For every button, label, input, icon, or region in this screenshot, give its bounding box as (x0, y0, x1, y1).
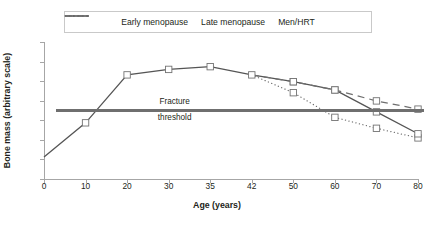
x-tick-label-42: 42 (247, 182, 256, 190)
x-tick-label-35: 35 (206, 182, 215, 190)
data-point-marker (124, 72, 130, 78)
data-point-marker (332, 87, 338, 93)
data-point-marker (373, 125, 379, 131)
bone-mass-chart: Early menopause Late menopause Men/HRT B… (0, 0, 434, 229)
data-point-marker (332, 114, 338, 120)
series-early-menopause (252, 75, 418, 138)
data-point-marker (207, 63, 213, 69)
chart-legend: Early menopause Late menopause Men/HRT (64, 11, 372, 33)
x-tick-label-10: 10 (81, 182, 90, 190)
legend-item-men-hrt: Men/HRT (278, 18, 315, 27)
x-tick-label-0: 0 (42, 182, 47, 190)
legend-item-early-menopause: Early menopause (121, 18, 188, 27)
data-point-marker (165, 66, 171, 72)
x-axis-line (44, 179, 418, 180)
legend-label-early-menopause: Early menopause (121, 18, 188, 27)
x-tick-label-60: 60 (330, 182, 339, 190)
fracture-threshold-line (56, 109, 424, 112)
data-point-marker (415, 131, 421, 137)
x-tick-label-50: 50 (289, 182, 298, 190)
fracture-threshold-label-line2: threshold (158, 114, 192, 123)
data-point-marker (290, 89, 296, 95)
series-line (252, 75, 418, 138)
x-tick-label-70: 70 (372, 182, 381, 190)
data-point-marker (249, 72, 255, 78)
legend-label-late-menopause: Late menopause (201, 18, 265, 27)
x-tick-label-20: 20 (122, 182, 131, 190)
x-tick-label-30: 30 (164, 182, 173, 190)
dashed-line-sample (65, 12, 89, 20)
data-point-marker (373, 98, 379, 104)
fracture-threshold-label-line1: Fracture (159, 98, 189, 107)
data-point-marker (290, 79, 296, 85)
data-point-marker (82, 120, 88, 126)
y-axis-title: Bone mass (arbitrary scale) (2, 42, 12, 179)
plot-area (44, 42, 418, 179)
legend-label-men-hrt: Men/HRT (278, 18, 315, 27)
legend-item-late-menopause: Late menopause (201, 18, 265, 27)
x-tick-label-80: 80 (413, 182, 422, 190)
x-axis-title: Age (years) (0, 200, 434, 210)
